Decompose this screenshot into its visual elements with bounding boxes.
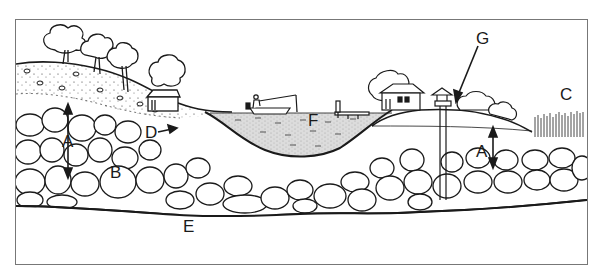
house-left [147,90,180,111]
groundwater-diagram [0,0,601,279]
label-a-left: A [62,133,73,150]
label-d: D [145,124,157,141]
label-b: B [110,164,121,181]
label-g: G [476,30,489,47]
diagram-canvas: A A B C D E F G [0,0,601,279]
label-a-right: A [476,143,487,160]
label-f: F [308,112,318,129]
label-c: C [560,86,572,103]
label-e: E [183,218,194,235]
house-right [380,84,424,110]
